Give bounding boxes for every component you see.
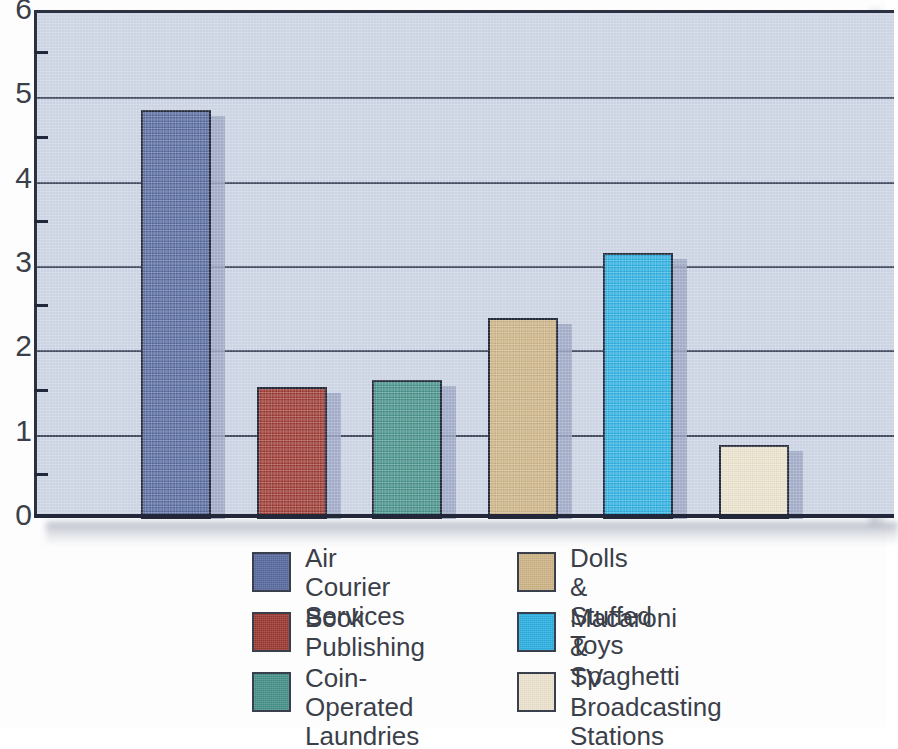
x-axis-baseline [34, 514, 894, 518]
y-axis-minor-tick [34, 51, 48, 54]
legend-swatch [517, 612, 556, 652]
bar-macaroni-spaghetti [603, 253, 673, 519]
bar-texture [143, 112, 209, 517]
bar-air-courier-services [141, 110, 211, 519]
legend-label: Coin-Operated Laundries [305, 664, 419, 749]
legend-swatch [252, 672, 291, 712]
bar-dolls-stuffed-toys [488, 318, 558, 519]
bar-side-face [327, 393, 341, 519]
y-axis-minor-tick [34, 136, 48, 139]
legend-swatch [252, 552, 291, 592]
legend-swatch [517, 672, 556, 712]
y-axis-label-1: 1 [2, 416, 32, 446]
legend-label: TV Broadcasting Stations [570, 664, 722, 749]
plot-drop-shadow [46, 522, 898, 544]
y-axis-label-2: 2 [2, 331, 32, 361]
bar-texture [374, 382, 440, 517]
bar-texture [721, 447, 787, 517]
bar-texture [490, 320, 556, 517]
legend-label: Book Publishing [305, 604, 425, 662]
bar-side-face [789, 451, 803, 519]
legend-swatch [252, 612, 291, 652]
legend-swatch-texture [254, 674, 289, 710]
legend-swatch-texture [519, 674, 554, 710]
y-axis-minor-tick [34, 304, 48, 307]
legend-swatch [517, 552, 556, 592]
y-axis-minor-tick [34, 473, 48, 476]
y-axis-label-5: 5 [2, 78, 32, 108]
legend-swatch-texture [254, 554, 289, 590]
y-axis-label-4: 4 [2, 163, 32, 193]
bar-side-face [442, 386, 456, 519]
chart-legend: Air Courier ServicesBook PublishingCoin-… [0, 548, 886, 727]
y-axis-label-6: 6 [2, 0, 32, 24]
legend-swatch-texture [519, 614, 554, 650]
y-axis-label-3: 3 [2, 247, 32, 277]
legend-swatch-texture [254, 614, 289, 650]
y-axis-minor-tick [34, 389, 48, 392]
bar-texture [259, 389, 325, 517]
bar-coin-operated-laundries [372, 380, 442, 519]
bar-tv-broadcasting-stations [719, 445, 789, 519]
bar-side-face [673, 259, 687, 519]
bar-texture [605, 255, 671, 517]
y-axis-label-0: 0 [2, 500, 32, 530]
bar-side-face [211, 116, 225, 519]
gridline-5 [37, 97, 894, 99]
bar-side-face [558, 324, 572, 519]
y-axis-minor-tick [34, 220, 48, 223]
bar-book-publishing [257, 387, 327, 519]
legend-swatch-texture [519, 554, 554, 590]
plot-area [34, 10, 894, 516]
